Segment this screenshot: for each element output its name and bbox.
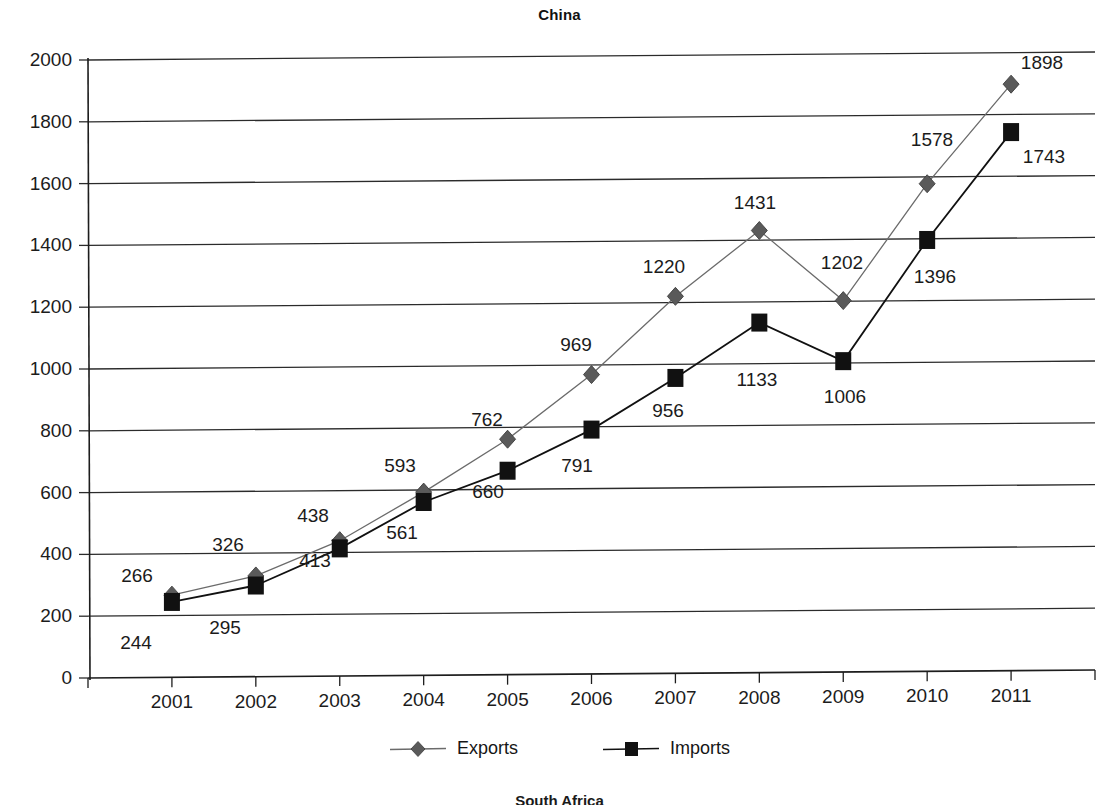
data-label-exports-2001: 266 — [121, 565, 153, 587]
y-tick-label: 800 — [0, 420, 72, 442]
x-tick-label: 2009 — [822, 686, 864, 708]
data-label-imports-2005: 660 — [472, 481, 504, 503]
data-point-marker[interactable] — [751, 221, 767, 239]
data-label-exports-2005: 762 — [471, 409, 503, 431]
data-label-imports-2004: 561 — [386, 522, 418, 544]
square-marker-icon — [602, 739, 660, 759]
gridline — [88, 114, 1095, 122]
gridline — [88, 237, 1095, 245]
y-axis-line — [88, 58, 90, 680]
x-tick-label: 2010 — [906, 685, 948, 707]
x-tick-label: 2001 — [151, 691, 193, 713]
data-point-marker[interactable] — [835, 292, 851, 310]
data-point-marker[interactable] — [584, 421, 600, 439]
diamond-marker-icon — [389, 739, 447, 759]
x-tick-label: 2005 — [486, 689, 528, 711]
y-tick-label: 1400 — [0, 234, 72, 256]
x-tick-label: 2006 — [570, 688, 612, 710]
data-label-exports-2011: 1898 — [1021, 52, 1063, 74]
data-label-exports-2004: 593 — [384, 455, 416, 477]
data-point-marker[interactable] — [835, 352, 851, 370]
data-label-imports-2009: 1006 — [824, 386, 866, 408]
gridline — [88, 52, 1095, 60]
data-point-marker[interactable] — [751, 314, 767, 332]
data-point-marker[interactable] — [584, 366, 600, 384]
data-label-exports-2002: 326 — [212, 534, 244, 556]
data-point-marker[interactable] — [248, 577, 264, 595]
data-label-exports-2010: 1578 — [911, 129, 953, 151]
data-label-exports-2006: 969 — [560, 334, 592, 356]
x-tick-label: 2003 — [319, 690, 361, 712]
data-point-marker[interactable] — [667, 369, 683, 387]
data-point-marker[interactable] — [1003, 123, 1019, 141]
data-label-imports-2001: 244 — [120, 632, 152, 654]
data-label-exports-2007: 1220 — [643, 256, 685, 278]
y-tick-label: 1600 — [0, 173, 72, 195]
chart-figure: China 0200400600800100012001400160018002… — [0, 0, 1119, 805]
data-point-marker[interactable] — [500, 430, 516, 448]
data-point-marker[interactable] — [332, 539, 348, 557]
data-label-imports-2008: 1133 — [737, 369, 778, 391]
chart-canvas — [0, 0, 1119, 805]
legend-item-exports[interactable]: Exports — [389, 738, 518, 759]
y-tick-label: 1800 — [0, 111, 72, 133]
gridline — [88, 485, 1095, 493]
data-label-imports-2006: 791 — [561, 455, 593, 477]
legend-item-imports[interactable]: Imports — [602, 738, 730, 759]
data-label-exports-2003: 438 — [297, 505, 329, 527]
x-tick-label: 2008 — [738, 687, 780, 709]
gridline — [88, 608, 1095, 616]
x-tick-label: 2004 — [403, 689, 445, 711]
chart-legend: Exports Imports — [0, 738, 1119, 759]
y-tick-label: 200 — [0, 605, 72, 627]
y-tick-label: 1200 — [0, 296, 72, 318]
data-label-imports-2011: 1743 — [1023, 146, 1065, 168]
y-tick-label: 400 — [0, 543, 72, 565]
legend-label-imports: Imports — [670, 738, 730, 759]
data-point-marker[interactable] — [500, 462, 516, 480]
data-label-imports-2007: 956 — [652, 400, 684, 422]
gridline — [88, 176, 1095, 184]
x-tick-label: 2002 — [235, 691, 277, 713]
data-label-exports-2009: 1202 — [821, 252, 863, 274]
data-point-marker[interactable] — [164, 593, 180, 611]
x-tick-label: 2007 — [654, 687, 696, 709]
data-label-imports-2010: 1396 — [914, 266, 956, 288]
y-tick-label: 1000 — [0, 358, 72, 380]
legend-label-exports: Exports — [457, 738, 518, 759]
y-tick-label: 2000 — [0, 49, 72, 71]
data-label-exports-2008: 1431 — [734, 192, 776, 214]
x-tick-label: 2011 — [991, 685, 1032, 707]
gridline — [88, 299, 1095, 307]
data-label-imports-2003: 413 — [299, 550, 331, 572]
data-point-marker[interactable] — [416, 493, 432, 511]
y-tick-label: 600 — [0, 482, 72, 504]
y-tick-label: 0 — [0, 667, 72, 689]
data-point-marker[interactable] — [919, 231, 935, 249]
data-label-imports-2002: 295 — [209, 617, 241, 639]
plot-area: 0200400600800100012001400160018002000 20… — [0, 0, 1119, 805]
next-figure-title: South Africa — [0, 793, 1119, 805]
